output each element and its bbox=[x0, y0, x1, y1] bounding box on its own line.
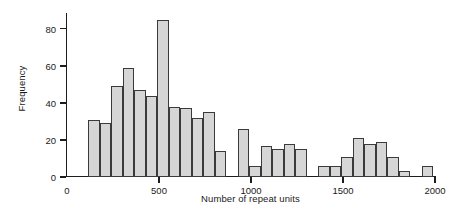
histogram-bar bbox=[376, 142, 388, 177]
y-axis-tick-label: 0 bbox=[34, 172, 56, 183]
histogram-bar bbox=[249, 166, 261, 177]
y-axis-label-text: Frequency bbox=[17, 65, 28, 111]
histogram-bar bbox=[272, 149, 284, 177]
histogram-bar bbox=[364, 144, 376, 177]
y-axis-tick-label: 80 bbox=[34, 23, 56, 34]
histogram-bar bbox=[295, 149, 307, 177]
histogram-bar bbox=[238, 129, 250, 177]
histogram-bar bbox=[88, 120, 100, 177]
histogram-bar bbox=[134, 90, 146, 177]
x-axis-tick bbox=[250, 177, 251, 183]
histogram-bar bbox=[261, 146, 273, 177]
y-axis-tick-label: 40 bbox=[34, 97, 56, 108]
histogram-bar bbox=[387, 157, 399, 177]
histogram-bar bbox=[318, 166, 330, 177]
histogram-bar bbox=[192, 118, 204, 177]
histogram-bar bbox=[203, 112, 215, 177]
histogram-bar bbox=[399, 171, 411, 177]
histogram-bar bbox=[353, 138, 365, 177]
x-axis-label: Number of repeat units bbox=[67, 193, 434, 204]
y-axis-tick bbox=[60, 28, 66, 29]
histogram-bar bbox=[123, 68, 135, 177]
x-axis-tick bbox=[158, 177, 159, 183]
histogram-bar bbox=[146, 96, 158, 178]
histogram-bar bbox=[341, 157, 353, 177]
x-axis-tick bbox=[434, 177, 435, 183]
y-axis-tick bbox=[60, 176, 66, 177]
y-axis-tick bbox=[60, 65, 66, 66]
histogram-figure: Frequency 020406080 0500100015002000 Num… bbox=[0, 0, 457, 216]
histogram-bar bbox=[330, 166, 342, 177]
histogram-bar bbox=[157, 20, 169, 177]
histogram-bar bbox=[180, 108, 192, 177]
y-axis-tick bbox=[60, 102, 66, 103]
histogram-bar bbox=[100, 123, 112, 177]
y-axis-label: Frequency bbox=[8, 0, 36, 176]
x-axis-label-text: Number of repeat units bbox=[201, 193, 300, 204]
histogram-bar bbox=[215, 151, 227, 177]
histogram-bar bbox=[422, 166, 434, 177]
histogram-bar bbox=[284, 144, 296, 177]
histogram-bar bbox=[169, 107, 181, 177]
y-axis-tick-label: 20 bbox=[34, 134, 56, 145]
x-axis-tick bbox=[342, 177, 343, 183]
y-axis-tick-label: 60 bbox=[34, 60, 56, 71]
plot-area bbox=[67, 14, 435, 177]
histogram-bar bbox=[111, 86, 123, 177]
y-axis-tick bbox=[60, 139, 66, 140]
